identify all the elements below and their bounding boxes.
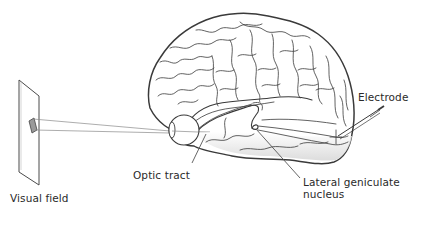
- label-lateral-geniculate: Lateral geniculate: [303, 176, 400, 188]
- electrode-probe: [338, 106, 384, 139]
- eye: [169, 115, 199, 145]
- lateral-geniculate-nucleus: [252, 125, 258, 130]
- label-optic-tract: Optic tract: [133, 169, 190, 181]
- visual-field-screen: [19, 80, 39, 185]
- label-nucleus: nucleus: [303, 188, 344, 200]
- label-electrode: Electrode: [358, 91, 408, 103]
- label-visual-field: Visual field: [10, 192, 69, 204]
